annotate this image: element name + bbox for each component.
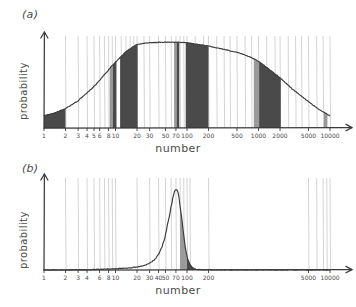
- shaded-band-dark: [113, 61, 117, 128]
- shaded-band-gray: [254, 59, 259, 128]
- x-tick-label: 3: [76, 272, 80, 284]
- shaded-band-dark: [259, 62, 281, 128]
- x-tick-label: 30: [146, 130, 154, 142]
- shaded-band-dark: [186, 43, 209, 128]
- x-tick-label: 50: [162, 130, 170, 142]
- panel-a-x-axis-label: number: [0, 142, 356, 155]
- x-tick-label: 200: [203, 130, 214, 142]
- x-tick-label: 10: [112, 130, 120, 142]
- x-tick-label: 2: [64, 272, 68, 284]
- x-tick-label: 200: [203, 272, 214, 284]
- x-tick-label: 30: [146, 272, 154, 284]
- x-tick-label: 5: [92, 130, 96, 142]
- x-tick-label: 4: [85, 130, 89, 142]
- x-tick-label: 70: [172, 272, 180, 284]
- shaded-band-dark: [187, 256, 196, 270]
- x-tick-label: 70: [172, 130, 180, 142]
- x-tick-label: 1000: [251, 130, 266, 142]
- x-tick-label: 10000: [320, 272, 339, 284]
- x-tick-label: 1: [42, 130, 46, 142]
- panel-a: (a) probability 123456810203050701002005…: [0, 0, 356, 158]
- x-tick-label: 8: [107, 272, 111, 284]
- x-tick-label: 20: [133, 130, 141, 142]
- x-tick-label: 6: [98, 130, 102, 142]
- panel-b-x-axis-label: number: [0, 284, 356, 297]
- x-tick-label: 100: [181, 130, 192, 142]
- x-tick-label: 6: [98, 272, 102, 284]
- x-tick-label: 50: [162, 272, 170, 284]
- x-tick-label: 20: [133, 272, 141, 284]
- x-tick-label: 100: [181, 272, 192, 284]
- x-tick-label: 4: [85, 272, 89, 284]
- x-tick-label: 2000: [272, 130, 287, 142]
- shaded-band-dark: [44, 109, 66, 128]
- x-tick-label: 8: [107, 130, 111, 142]
- panel-b: (b) probability 123468102030405070100200…: [0, 155, 356, 307]
- x-tick-label: 10000: [320, 130, 339, 142]
- x-tick-label: 5000: [301, 272, 316, 284]
- shaded-band-gray: [110, 65, 113, 128]
- x-tick-label: 10: [112, 272, 120, 284]
- shaded-band-dark: [120, 44, 138, 128]
- panel-a-x-tick-labels: 1234568102030507010020050010002000500010…: [0, 130, 356, 142]
- panel-b-x-tick-labels: 123468102030405070100200500010000: [0, 272, 356, 284]
- gridlines: [66, 178, 331, 270]
- shaded-band-gray: [174, 42, 177, 128]
- x-tick-label: 500: [231, 130, 242, 142]
- x-tick-label: 5000: [301, 130, 316, 142]
- shaded-band-dark: [177, 42, 179, 128]
- x-tick-label: 1: [42, 272, 46, 284]
- x-tick-label: 2: [64, 130, 68, 142]
- x-tick-label: 3: [76, 130, 80, 142]
